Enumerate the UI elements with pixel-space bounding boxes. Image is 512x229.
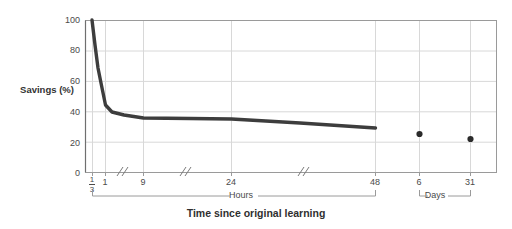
- axis-break-icon-1-9: [117, 167, 128, 176]
- data-point-6-days: [416, 131, 422, 137]
- bracket-days-right: [448, 190, 471, 196]
- axis-break-icon-24-48: [298, 167, 309, 176]
- bracket-hours-right: [258, 190, 376, 196]
- bracket-hours-left: [93, 190, 231, 196]
- chart-canvas: [0, 0, 512, 229]
- axis-break-icon-9-24: [180, 167, 191, 176]
- plot-frame-rect: [86, 21, 497, 173]
- plot-frame: [86, 21, 497, 173]
- x-group-brackets: [93, 190, 471, 196]
- data-point-31-days: [467, 136, 473, 142]
- vertical-gridlines: [93, 21, 471, 173]
- axis-break-marks: [117, 167, 309, 176]
- chart-container: Savings (%) 100 80 60 40 20 0 1 3 1 9 24…: [0, 0, 512, 229]
- bracket-days-left: [420, 190, 429, 196]
- x-axis-baseline-group: [86, 173, 498, 177]
